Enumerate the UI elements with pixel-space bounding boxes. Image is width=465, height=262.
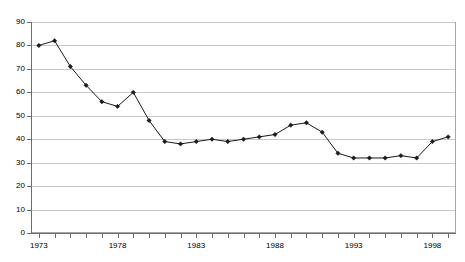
x-axis-tick bbox=[55, 234, 56, 238]
data-point-marker bbox=[289, 123, 293, 127]
x-axis-tick bbox=[401, 234, 402, 238]
x-axis-tick bbox=[165, 234, 166, 238]
x-axis-tick bbox=[118, 234, 119, 238]
x-axis-tick bbox=[133, 234, 134, 238]
x-axis-tick bbox=[39, 234, 40, 238]
x-axis-tick bbox=[354, 234, 355, 238]
data-point-marker bbox=[178, 142, 182, 146]
x-axis-tick bbox=[259, 234, 260, 238]
data-point-marker bbox=[210, 137, 214, 141]
y-axis-tick bbox=[27, 92, 31, 93]
data-point-marker bbox=[257, 135, 261, 139]
data-point-marker bbox=[351, 156, 355, 160]
y-axis-tick bbox=[27, 69, 31, 70]
x-axis-tick bbox=[212, 234, 213, 238]
data-point-marker bbox=[446, 135, 450, 139]
data-point-marker bbox=[399, 153, 403, 157]
data-point-marker bbox=[241, 137, 245, 141]
x-axis-tick bbox=[322, 234, 323, 238]
x-axis-tick bbox=[181, 234, 182, 238]
data-series bbox=[0, 0, 465, 262]
y-axis-tick bbox=[27, 233, 31, 234]
x-axis-tick bbox=[306, 234, 307, 238]
x-axis-tick bbox=[291, 234, 292, 238]
data-point-marker bbox=[226, 139, 230, 143]
x-axis-tick bbox=[369, 234, 370, 238]
data-point-marker bbox=[383, 156, 387, 160]
y-axis-tick bbox=[27, 163, 31, 164]
x-axis-tick bbox=[244, 234, 245, 238]
y-axis-tick bbox=[27, 186, 31, 187]
y-axis-tick bbox=[27, 22, 31, 23]
x-axis-tick bbox=[432, 234, 433, 238]
chart-container: 0102030405060708090 19731978198319881993… bbox=[0, 0, 465, 262]
x-axis-tick bbox=[228, 234, 229, 238]
x-axis-tick bbox=[338, 234, 339, 238]
x-axis-tick bbox=[86, 234, 87, 238]
data-point-marker bbox=[304, 121, 308, 125]
x-axis-tick bbox=[102, 234, 103, 238]
data-point-marker bbox=[52, 39, 56, 43]
x-axis-tick bbox=[196, 234, 197, 238]
x-axis-tick bbox=[275, 234, 276, 238]
x-axis-tick bbox=[70, 234, 71, 238]
data-point-marker bbox=[194, 139, 198, 143]
y-axis-tick bbox=[27, 210, 31, 211]
y-axis-tick bbox=[27, 45, 31, 46]
x-axis-tick bbox=[385, 234, 386, 238]
y-axis-tick bbox=[27, 116, 31, 117]
data-point-marker bbox=[37, 43, 41, 47]
data-point-marker bbox=[273, 132, 277, 136]
marker-group bbox=[37, 39, 451, 161]
y-axis-tick bbox=[27, 139, 31, 140]
x-axis-tick bbox=[417, 234, 418, 238]
x-axis-tick bbox=[448, 234, 449, 238]
data-point-marker bbox=[367, 156, 371, 160]
x-axis-tick bbox=[149, 234, 150, 238]
